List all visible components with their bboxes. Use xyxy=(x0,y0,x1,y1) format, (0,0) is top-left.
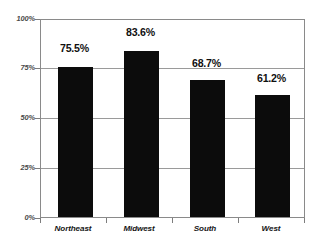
bar-south xyxy=(190,80,225,217)
bar-northeast xyxy=(58,67,93,217)
category-label-midwest: Midwest xyxy=(106,224,172,233)
category-label-south: South xyxy=(172,224,238,233)
xtick-mark-0 xyxy=(40,218,41,223)
ytick-mark-75 xyxy=(35,68,40,69)
ytick-label-25: 25% xyxy=(21,164,36,172)
bar-chart: 100% 75% 50% 25% 0% 75.5% 83.6% 68.7% 61… xyxy=(0,0,322,248)
xtick-mark-1 xyxy=(106,218,107,223)
xtick-mark-4 xyxy=(304,218,305,223)
ytick-mark-50 xyxy=(35,118,40,119)
category-label-northeast: Northeast xyxy=(40,224,106,233)
value-label-west: 61.2% xyxy=(237,73,306,84)
value-label-south: 68.7% xyxy=(172,58,241,69)
xtick-mark-2 xyxy=(172,218,173,223)
ytick-label-50: 50% xyxy=(21,114,36,122)
bar-midwest xyxy=(124,51,159,217)
ytick-mark-25 xyxy=(35,168,40,169)
xtick-mark-3 xyxy=(238,218,239,223)
value-label-midwest: 83.6% xyxy=(106,27,175,38)
ytick-label-0: 0% xyxy=(25,214,35,222)
ytick-label-75: 75% xyxy=(21,64,36,72)
bar-west xyxy=(255,95,290,217)
category-label-west: West xyxy=(238,224,304,233)
ytick-mark-100 xyxy=(35,19,40,20)
ytick-label-100: 100% xyxy=(16,15,35,23)
value-label-northeast: 75.5% xyxy=(40,43,109,54)
